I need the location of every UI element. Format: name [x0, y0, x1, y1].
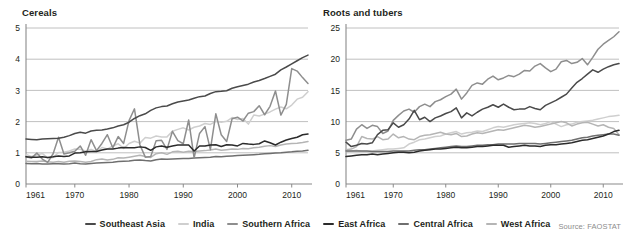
- x-axis-tick-label: 1961: [26, 190, 45, 200]
- x-axis-tick-label: 2000: [228, 190, 247, 200]
- y-axis-tick-label: 5: [15, 23, 20, 33]
- panel-cereals: Cereals 012345196119701980199020002010: [0, 0, 316, 212]
- plot-area-cereals: 012345196119701980199020002010: [0, 0, 316, 212]
- legend-swatch-icon: [486, 223, 497, 226]
- y-axis-tick-label: 25: [331, 23, 341, 33]
- y-axis-tick-label: 0: [15, 179, 20, 189]
- x-axis-tick-label: 1961: [346, 190, 365, 200]
- y-axis-tick-label: 0: [335, 179, 340, 189]
- legend-item-east-africa[interactable]: East Africa: [323, 219, 385, 229]
- y-axis-tick-label: 1: [15, 148, 20, 158]
- legend-swatch-icon: [227, 223, 238, 226]
- legend-swatch-icon: [85, 223, 96, 226]
- x-axis-tick-label: 1970: [65, 190, 84, 200]
- legend-item-india[interactable]: India: [178, 219, 214, 229]
- legend-item-central-africa[interactable]: Central Africa: [398, 219, 472, 229]
- y-axis-tick-label: 4: [15, 54, 20, 64]
- legend-label: East Africa: [338, 219, 385, 229]
- x-axis-tick-label: 2010: [594, 190, 613, 200]
- legend-item-west-africa[interactable]: West Africa: [486, 219, 551, 229]
- y-axis-tick-label: 20: [331, 54, 341, 64]
- source-note: Source: FAOSTAT: [559, 222, 622, 231]
- x-axis-tick-label: 1990: [489, 190, 508, 200]
- y-axis-tick-label: 2: [15, 117, 20, 127]
- plot-area-roots-and-tubers: 0510152025196119701980199020002010: [316, 0, 629, 212]
- legend-swatch-icon: [178, 223, 189, 226]
- x-axis-tick-label: 2010: [282, 190, 301, 200]
- y-axis-tick-label: 10: [331, 117, 341, 127]
- legend-label: India: [193, 219, 214, 229]
- x-axis-tick-label: 1980: [436, 190, 455, 200]
- legend-item-southeast-asia[interactable]: Southeast Asia: [85, 219, 165, 229]
- legend-swatch-icon: [398, 223, 409, 226]
- panel-roots-and-tubers: Roots and tubers 05101520251961197019801…: [316, 0, 629, 212]
- legend-label: Southeast Asia: [100, 219, 165, 229]
- legend-item-southern-africa[interactable]: Southern Africa: [227, 219, 310, 229]
- series-line-southern-africa: [26, 69, 308, 163]
- legend-label: Central Africa: [413, 219, 472, 229]
- series-line-southeast-asia: [26, 55, 308, 140]
- y-axis-tick-label: 5: [335, 148, 340, 158]
- x-axis-tick-label: 2000: [541, 190, 560, 200]
- x-axis-tick-label: 1970: [384, 190, 403, 200]
- figure-root: Cereals 012345196119701980199020002010 R…: [0, 0, 629, 245]
- legend-swatch-icon: [323, 223, 334, 226]
- legend-label: West Africa: [501, 219, 551, 229]
- x-axis-tick-label: 1990: [174, 190, 193, 200]
- legend-label: Southern Africa: [242, 219, 310, 229]
- y-axis-tick-label: 15: [331, 86, 341, 96]
- chart-legend: Southeast AsiaIndiaSouthern AfricaEast A…: [0, 212, 629, 236]
- x-axis-tick-label: 1980: [120, 190, 139, 200]
- chart-svg-cereals: 012345196119701980199020002010: [0, 0, 316, 212]
- y-axis-tick-label: 3: [15, 86, 20, 96]
- chart-svg-roots-and-tubers: 0510152025196119701980199020002010: [316, 0, 629, 212]
